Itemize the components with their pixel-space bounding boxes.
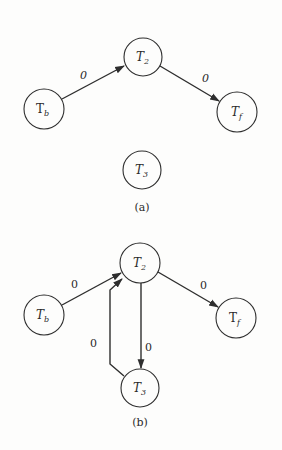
edge-label-b-tb-t2: 0 [71, 278, 78, 291]
node-a-t3-sub: 3 [143, 170, 148, 179]
edge-b-t2-tf [158, 272, 218, 307]
task-graph-figure: 0 0 Tb T2 Tf T3 (a) 0 0 0 0 [0, 0, 282, 450]
diagram-a: 0 0 Tb T2 Tf T3 (a) [24, 38, 257, 214]
node-b-tf: Tf [216, 298, 256, 338]
node-b-t3: T3 [121, 369, 159, 407]
node-a-tf: Tf [217, 92, 257, 132]
node-a-tb: Tb [24, 89, 64, 129]
node-a-tb-base: T [36, 102, 44, 116]
caption-a: (a) [134, 201, 149, 214]
node-a-t2-sub: 2 [143, 57, 149, 66]
diagram-b: 0 0 0 0 Tb T2 Tf T3 (b) [24, 243, 256, 429]
edge-b-t3-t2 [110, 279, 124, 376]
edge-label-b-t2-t3: 0 [145, 341, 152, 354]
node-a-tb-sub: b [44, 109, 49, 118]
edge-label-a-t2-tf: 0 [202, 72, 209, 85]
edge-label-b-t3-t2: 0 [90, 337, 97, 350]
node-b-tb: Tb [24, 295, 64, 335]
caption-b: (b) [132, 416, 148, 429]
node-a-t2: T2 [124, 38, 162, 76]
edge-label-b-t2-tf: 0 [200, 279, 207, 292]
node-b-t3-sub: 3 [141, 388, 146, 397]
edge-label-a-tb-t2: 0 [80, 69, 87, 82]
edge-a-tb-t2 [62, 66, 124, 99]
node-a-t3: T3 [123, 151, 161, 189]
edge-a-t2-tf [160, 66, 219, 101]
node-b-t2: T2 [120, 243, 160, 283]
node-b-t2-sub: 2 [140, 263, 146, 272]
node-b-tf-base: T [229, 311, 237, 325]
node-b-tb-sub: b [44, 315, 49, 324]
